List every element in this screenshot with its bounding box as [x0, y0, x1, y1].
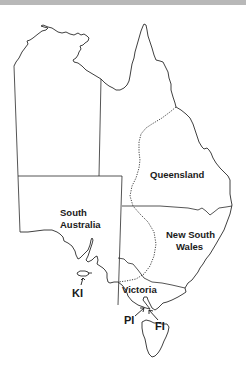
label-fi: FI: [155, 320, 165, 332]
kangaroo-island: [77, 271, 89, 276]
sa-coastline: [20, 230, 118, 283]
label-victoria: Victoria: [122, 284, 157, 295]
arrow-ki: [81, 278, 85, 285]
label-nsw-1: New South: [166, 229, 215, 240]
australia-map: Queensland South Australia New South Wal…: [0, 0, 246, 369]
qld-nsw-border: [122, 206, 232, 215]
dotted-boundary: [118, 107, 176, 282]
label-south-australia-2: Australia: [60, 219, 101, 230]
nt-qld-border: [99, 79, 101, 176]
label-south-australia-1: South: [60, 207, 87, 218]
label-queensland: Queensland: [150, 169, 205, 180]
label-pi: PI: [124, 314, 134, 326]
sa-west-border: [18, 176, 20, 232]
label-nsw-2: Wales: [176, 241, 203, 252]
label-ki: KI: [72, 287, 83, 299]
nt-west-border: [14, 66, 18, 176]
arrow-fi: [149, 310, 158, 320]
arrow-pi: [135, 308, 144, 316]
